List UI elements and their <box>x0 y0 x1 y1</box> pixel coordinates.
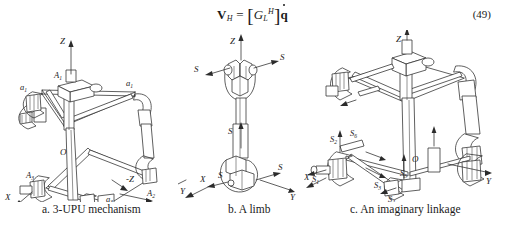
equation-expression: VH = [GLH]q <box>0 5 505 27</box>
screw-label-lower-right: S <box>278 162 283 172</box>
screw-label-middle: S <box>228 126 233 136</box>
diagram-a-limb: Z S S S S S <box>178 30 304 202</box>
axis-label-x: X <box>4 192 11 202</box>
axis-z <box>238 34 243 60</box>
axis-label-y: Y <box>290 192 296 202</box>
panel-3upu-mechanism: Z -Z X Y O A1 A2 A3 a1 a1 a3 <box>2 30 178 202</box>
origin-label: O <box>412 154 419 164</box>
axis-x <box>185 186 210 198</box>
axis-label-negative-z: -Z <box>126 174 135 184</box>
central-column <box>400 58 416 184</box>
caption-panel-c: c. An imaginary linkage <box>350 203 461 215</box>
joint-label-a2: a1 <box>126 78 133 89</box>
axis-label-x: X <box>304 172 310 182</box>
screw-label-S1: S1 <box>312 174 319 185</box>
equation-equals: = <box>236 7 244 22</box>
figure-area: Z -Z X Y O A1 A2 A3 a1 a1 a3 <box>0 30 505 202</box>
origin-label: O <box>60 147 67 157</box>
joint-label-A1: A1 <box>53 70 62 81</box>
screw-label-lower-left: S <box>218 170 223 180</box>
screw-label-S3: S3 <box>374 180 381 191</box>
axis-stub-label: Y <box>180 186 186 196</box>
axis-z <box>405 30 410 40</box>
joint-label-a1: a1 <box>20 82 27 93</box>
joint-top-center <box>392 40 434 76</box>
panel-imaginary-linkage: Z X Y O S1 S2 S3 S4 S5 S6 <box>304 30 505 202</box>
upper-universal-joint <box>224 60 257 100</box>
equation-lhs-vector: V <box>217 7 227 22</box>
prismatic-marker-center <box>428 126 440 172</box>
equation-row: VH = [GLH]q (49) <box>0 0 505 32</box>
axis-label-z: Z <box>60 36 66 46</box>
screw-label-upper-left: S <box>194 64 199 74</box>
equation-lhs-subscript: H <box>227 14 233 23</box>
caption-panel-b: b. A limb <box>228 203 271 215</box>
central-column <box>64 86 78 200</box>
axis-z <box>68 40 73 74</box>
screw-axis-lower-right <box>256 172 281 180</box>
diagram-imaginary-linkage: Z X Y O S1 S2 S3 S4 S5 S6 <box>304 30 505 202</box>
lower-universal-joint <box>220 156 257 192</box>
joint-label-A3: A3 <box>25 170 34 181</box>
axis-label-z: Z <box>230 36 236 46</box>
limb-upper-right <box>454 66 482 166</box>
axis-label-y: Y <box>486 176 492 186</box>
axis-label-z: Z <box>396 34 402 44</box>
screw-label-S2: S2 <box>330 134 337 145</box>
screw-label-upper-right: S <box>280 52 285 62</box>
screw-axis-upper-right <box>254 60 279 68</box>
caption-row: a. 3-UPU mechanism b. A limb c. An imagi… <box>0 203 505 225</box>
caption-panel-a: a. 3-UPU mechanism <box>42 203 141 215</box>
equation-rhs-vector: q <box>280 7 287 23</box>
diagram-3upu-mechanism: Z -Z X Y O A1 A2 A3 a1 a1 a3 <box>2 30 178 202</box>
screw-label-S6: S6 <box>350 128 357 139</box>
equation-matrix-symbol: G <box>254 7 264 22</box>
screw-label-S4: S4 <box>388 194 395 202</box>
axis-stub-left: Y <box>178 180 186 196</box>
joint-top-center <box>58 70 102 102</box>
joint-label-A2: A2 <box>146 188 155 199</box>
equation-number: (49) <box>473 8 491 20</box>
panel-a-limb: Z S S S S S <box>178 30 304 202</box>
axis-label-x: X <box>199 174 206 184</box>
